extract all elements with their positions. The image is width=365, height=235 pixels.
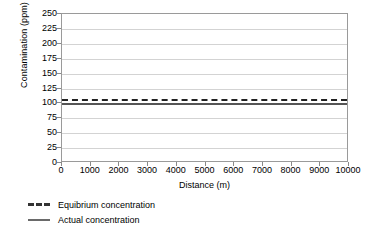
y-tick-label: 125	[17, 84, 57, 93]
chart-legend: Equibrium concentrationActual concentrat…	[28, 198, 328, 228]
legend-item: Actual concentration	[28, 213, 328, 226]
x-tick-mark	[176, 162, 177, 166]
legend-item: Equibrium concentration	[28, 198, 328, 211]
series-line-dashed	[62, 99, 347, 101]
y-tick-label: 250	[17, 9, 57, 18]
x-tick-mark	[205, 162, 206, 166]
y-tick-label: 225	[17, 24, 57, 33]
y-tick-label: 50	[17, 128, 57, 137]
y-tick-label: 200	[17, 39, 57, 48]
y-tick-label: 100	[17, 98, 57, 107]
legend-swatch-solid	[28, 219, 50, 221]
legend-swatch-dashed	[28, 203, 50, 206]
x-tick-mark	[118, 162, 119, 166]
x-tick-mark	[90, 162, 91, 166]
y-tick-label: 25	[17, 143, 57, 152]
data-series-layer	[62, 14, 347, 161]
legend-label: Actual concentration	[58, 215, 140, 225]
x-tick-label: 10000	[326, 166, 365, 175]
x-tick-mark	[262, 162, 263, 166]
x-tick-mark	[61, 162, 62, 166]
x-tick-mark	[348, 162, 349, 166]
series-line-solid	[62, 103, 347, 105]
x-tick-mark	[291, 162, 292, 166]
x-axis-title: Distance (m)	[61, 180, 348, 190]
legend-label: Equibrium concentration	[58, 200, 155, 210]
plot-area	[61, 13, 348, 162]
x-tick-mark	[233, 162, 234, 166]
x-tick-mark	[147, 162, 148, 166]
y-tick-label: 175	[17, 54, 57, 63]
y-tick-label: 75	[17, 113, 57, 122]
y-tick-label: 150	[17, 69, 57, 78]
x-tick-mark	[319, 162, 320, 166]
